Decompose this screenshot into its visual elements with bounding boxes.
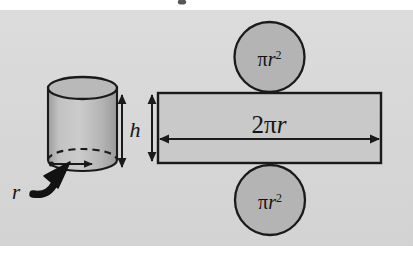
rectangle-width-label: 2πr bbox=[252, 111, 287, 138]
bottom-cap-r: r bbox=[268, 191, 276, 213]
height-label: h bbox=[130, 117, 141, 142]
top-cap-exponent: 2 bbox=[275, 48, 281, 62]
top-cap-pi: π bbox=[258, 48, 268, 70]
rect-width-r: r bbox=[277, 111, 287, 138]
figure-root: r h πr2 πr2 2πr bbox=[0, 0, 413, 263]
bottom-cap-exponent: 2 bbox=[276, 191, 282, 205]
radius-origin-dot bbox=[49, 161, 54, 166]
cylinder-body bbox=[48, 88, 117, 171]
radius-label: r bbox=[12, 180, 21, 204]
bottom-cap-pi: π bbox=[258, 191, 268, 213]
cylinder-net-diagram: r h πr2 πr2 2πr bbox=[0, 0, 413, 263]
top-cap-circle: πr2 bbox=[235, 22, 305, 92]
cylinder-shape bbox=[48, 77, 117, 171]
bottom-cap-circle: πr2 bbox=[235, 165, 305, 235]
cylinder-top-ellipse bbox=[48, 77, 117, 99]
rect-width-two-pi: 2π bbox=[252, 111, 278, 138]
top-cap-r: r bbox=[268, 48, 276, 70]
